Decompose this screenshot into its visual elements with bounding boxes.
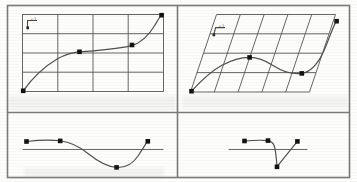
marker-point: [159, 13, 164, 18]
marker-point: [275, 165, 280, 170]
curve-markers: [242, 138, 300, 169]
sheared-grid: [191, 15, 336, 93]
marker-point: [58, 139, 63, 144]
rectangular-grid: [23, 15, 164, 92]
marker-point: [266, 138, 271, 143]
curve-markers: [24, 139, 150, 170]
panel-bottom-left: [23, 139, 164, 170]
marker-point: [146, 139, 151, 144]
corner-tick-mark: [26, 26, 29, 29]
curve-path: [245, 140, 278, 166]
marker-point: [189, 89, 194, 94]
marker-point: [21, 89, 26, 94]
corner-label: f⁻¹: [31, 17, 36, 22]
curve-path: [192, 22, 337, 92]
marker-point: [242, 139, 247, 144]
marker-point: [295, 139, 300, 144]
marker-point: [130, 43, 135, 48]
marker-point: [24, 139, 29, 144]
corner-tick-mark: [213, 33, 216, 36]
curve-path-rise: [277, 142, 297, 167]
marker-point: [300, 71, 305, 76]
panel-top-right: f⁻¹ x: [189, 15, 339, 94]
marker-point: [334, 19, 339, 24]
corner-annotation-top-right: f⁻¹ x: [213, 24, 225, 38]
figure-canvas: f⁻¹ x: [0, 0, 357, 182]
marker-point: [114, 165, 119, 170]
marker-point: [247, 55, 252, 60]
marker-point: [77, 50, 82, 55]
curve-path: [27, 140, 148, 167]
corner-annotation-top-left: f⁻¹ x: [26, 17, 37, 31]
four-panel-figure: f⁻¹ x: [0, 0, 357, 182]
corner-label: f⁻¹: [219, 24, 224, 29]
panel-bottom-right: [229, 138, 308, 169]
panel-top-left: f⁻¹ x: [21, 13, 164, 93]
